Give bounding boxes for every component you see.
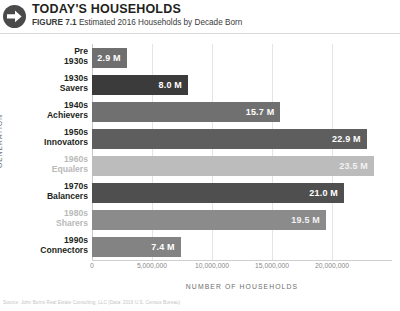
x-tick-label: 20,000,000 xyxy=(315,262,349,269)
y-axis-labels: Pre1930s1930sSavers1940sAchievers1950sIn… xyxy=(0,44,88,260)
bar-value-label: 2.9 M xyxy=(97,53,127,63)
bar-row: 22.9 M xyxy=(92,125,392,152)
x-axis-line xyxy=(92,260,392,261)
category-generation: 1930s xyxy=(8,57,88,67)
bar-row: 23.5 M xyxy=(92,152,392,179)
category-generation: Achievers xyxy=(8,111,88,121)
bar[interactable]: 21.0 M xyxy=(92,183,344,203)
category-generation: Balancers xyxy=(8,192,88,202)
bar[interactable]: 8.0 M xyxy=(92,75,188,95)
y-axis-title: GENERATION xyxy=(0,114,3,168)
plot-area: 2.9 M8.0 M15.7 M22.9 M23.5 M21.0 M19.5 M… xyxy=(92,44,392,260)
bar[interactable]: 15.7 M xyxy=(92,102,280,122)
figure-caption: Estimated 2016 Households by Decade Born xyxy=(79,18,242,27)
y-axis-category-label: 1940sAchievers xyxy=(8,101,88,120)
y-axis-category-label: Pre1930s xyxy=(8,47,88,66)
header-divider xyxy=(0,33,400,34)
figure-number: FIGURE 7.1 xyxy=(32,18,77,27)
y-axis-category-label: 1980sSharers xyxy=(8,209,88,228)
y-axis-category-label: 1990sConnectors xyxy=(8,236,88,255)
bar-row: 7.4 M xyxy=(92,233,392,260)
category-generation: Innovators xyxy=(8,138,88,148)
y-axis-category-label: 1930sSavers xyxy=(8,74,88,93)
bar-row: 21.0 M xyxy=(92,179,392,206)
category-generation: Equalers xyxy=(8,165,88,175)
figure-container: TODAY'S HOUSEHOLDS FIGURE 7.1 Estimated … xyxy=(0,0,400,311)
y-axis-category-label: 1970sBalancers xyxy=(8,182,88,201)
category-generation: Sharers xyxy=(8,219,88,229)
category-generation: Savers xyxy=(8,84,88,94)
figure-header: TODAY'S HOUSEHOLDS FIGURE 7.1 Estimated … xyxy=(0,0,400,34)
bar-row: 8.0 M xyxy=(92,71,392,98)
bar[interactable]: 2.9 M xyxy=(92,48,127,68)
bar[interactable]: 23.5 M xyxy=(92,156,374,176)
y-axis-category-label: 1950sInnovators xyxy=(8,128,88,147)
bar-value-label: 15.7 M xyxy=(246,107,281,117)
bar[interactable]: 22.9 M xyxy=(92,129,367,149)
bar-row: 19.5 M xyxy=(92,206,392,233)
bar[interactable]: 19.5 M xyxy=(92,210,326,230)
bar-row: 2.9 M xyxy=(92,44,392,71)
page-title: TODAY'S HOUSEHOLDS xyxy=(32,2,181,16)
bar-value-label: 22.9 M xyxy=(332,134,367,144)
x-axis-ticks: 05,000,00010,000,00015,000,00020,000,000 xyxy=(92,262,392,274)
bar-value-label: 19.5 M xyxy=(291,215,326,225)
bar-value-label: 8.0 M xyxy=(158,80,188,90)
x-tick-label: 0 xyxy=(90,262,94,269)
figure-subtitle: FIGURE 7.1 Estimated 2016 Households by … xyxy=(32,18,242,27)
bar[interactable]: 7.4 M xyxy=(92,237,181,257)
bar-value-label: 23.5 M xyxy=(339,161,374,171)
bar-value-label: 7.4 M xyxy=(151,242,181,252)
category-generation: Connectors xyxy=(8,246,88,256)
x-axis-title: NUMBER OF HOUSEHOLDS xyxy=(92,283,392,290)
bar-row: 15.7 M xyxy=(92,98,392,125)
source-note: Source: John Burns Real Estate Consultin… xyxy=(3,300,333,305)
x-tick-label: 10,000,000 xyxy=(195,262,229,269)
x-tick-label: 15,000,000 xyxy=(255,262,289,269)
x-tick-label: 5,000,000 xyxy=(137,262,167,269)
bar-value-label: 21.0 M xyxy=(309,188,344,198)
y-axis-category-label: 1960sEqualers xyxy=(8,155,88,174)
arrow-right-circle-icon xyxy=(3,5,26,28)
